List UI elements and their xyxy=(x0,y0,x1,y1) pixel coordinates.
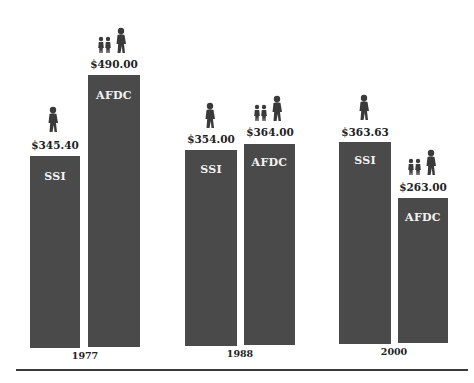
bar-ssi-2000: SSI xyxy=(339,142,391,344)
family-icon xyxy=(98,26,130,58)
bar-label: SSI xyxy=(30,170,80,183)
single-adult-icon xyxy=(202,102,218,133)
bar-afdc-2000: AFDC xyxy=(398,198,448,343)
bar-label: SSI xyxy=(185,163,237,176)
value-label: $263.00 xyxy=(386,181,460,193)
value-label: $364.00 xyxy=(233,126,307,138)
bar-ssi-1988: SSI xyxy=(185,150,237,346)
value-label: $490.00 xyxy=(77,58,151,70)
value-label: $345.40 xyxy=(18,139,92,151)
single-adult-icon xyxy=(45,106,61,137)
bar-label: AFDC xyxy=(88,89,140,102)
x-tick-label: 1988 xyxy=(215,348,265,359)
bar-label: AFDC xyxy=(398,211,448,224)
bar-label: SSI xyxy=(339,154,391,167)
x-tick-label: 2000 xyxy=(369,346,419,357)
bar-label: AFDC xyxy=(244,156,295,169)
single-adult-icon xyxy=(356,94,372,125)
bar-afdc-1988: AFDC xyxy=(244,144,295,345)
value-label: $363.63 xyxy=(328,126,402,138)
baseline-rule xyxy=(16,369,468,371)
x-tick-label: 1977 xyxy=(60,350,110,361)
bar-chart: $345.40 SSI $490.00 AFDC 1977 $354.00 SS… xyxy=(0,0,474,383)
bar-afdc-1977: AFDC xyxy=(88,75,140,347)
family-icon xyxy=(408,148,440,180)
family-icon xyxy=(254,94,286,126)
bar-ssi-1977: SSI xyxy=(30,156,80,348)
